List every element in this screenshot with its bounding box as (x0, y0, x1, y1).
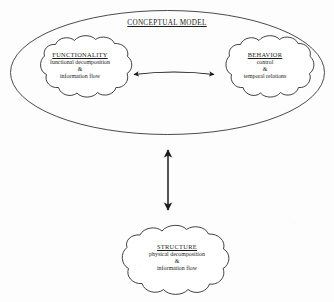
structure-title: STRUCTURE (122, 243, 232, 251)
behavior-line-1: control (221, 59, 309, 66)
behavior-label: BEHAVIOR control & temporal relations (221, 51, 309, 80)
functionality-line-1: functional decomposition (32, 59, 128, 66)
functionality-line-2: & (32, 66, 128, 73)
structure-label: STRUCTURE physical decomposition & infor… (122, 243, 232, 272)
behavior-line-2: & (221, 66, 309, 73)
functionality-line-3: information flow (32, 73, 128, 80)
behavior-title: BEHAVIOR (221, 51, 309, 59)
structure-line-3: information flow (122, 265, 232, 272)
diagram-canvas: CONCEPTUAL MODEL FUNCTIONALITY functiona… (0, 0, 334, 302)
functionality-title: FUNCTIONALITY (32, 51, 128, 59)
conceptual-model-title: CONCEPTUAL MODEL (0, 19, 334, 27)
structure-line-1: physical decomposition (122, 251, 232, 258)
functionality-behavior-arrow (134, 72, 214, 75)
functionality-label: FUNCTIONALITY functional decomposition &… (32, 51, 128, 80)
structure-line-2: & (122, 258, 232, 265)
behavior-line-3: temporal relations (221, 73, 309, 80)
conceptual-model-title-text: CONCEPTUAL MODEL (0, 19, 334, 27)
